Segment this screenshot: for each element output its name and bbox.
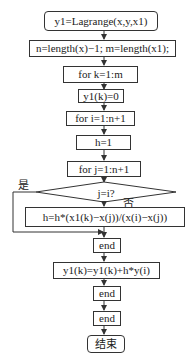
init-h-node: h=1 (76, 135, 131, 150)
update-h-node: h=h*(x1(k)−x(j))/(x(i)−x(j)) (25, 207, 185, 227)
finish-node: 结束 (87, 335, 125, 353)
end-k-node: end (93, 311, 121, 326)
yes-label: 是 (18, 180, 29, 191)
init-y1k-node: y1(k)=0 (78, 89, 124, 103)
init-lengths-node: n=length(x)−1; m=length(x1); (29, 40, 176, 57)
loop-k-node: for k=1:m (63, 66, 138, 83)
accumulate-node: y1(k)=y1(k)+h*y(i) (53, 262, 160, 279)
decision-label: j=i? (97, 188, 114, 199)
loop-i-node: for i=1:n+1 (66, 111, 135, 126)
end-i-node: end (93, 286, 121, 301)
end-j-node: end (93, 238, 121, 253)
start-node: y1=Lagrange(x,y,x1) (44, 11, 158, 31)
loop-j-node: for j=1:n+1 (67, 161, 141, 177)
